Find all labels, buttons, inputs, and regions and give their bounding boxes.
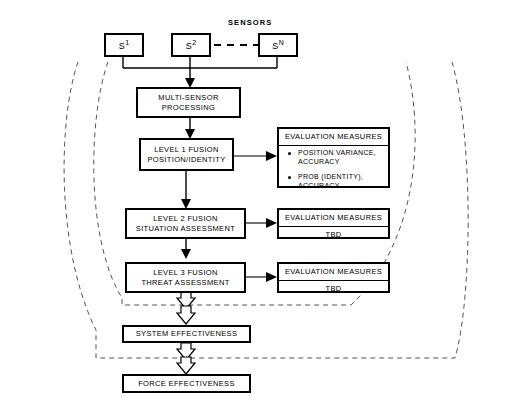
node-level-1-fusion[interactable]: LEVEL 1 FUSION POSITION/IDENTITY — [139, 138, 234, 171]
node-level-3-fusion-line2: THREAT ASSESSMENT — [141, 278, 229, 287]
connector-layer — [0, 0, 512, 414]
level3-to-eval3-arrowhead — [266, 272, 277, 282]
system-to-force-hollow-arrow-lower — [177, 357, 195, 374]
sensor-box-s2-label: S2 — [186, 39, 196, 52]
node-force-effectiveness-label: FORCE EFFECTIVENESS — [138, 379, 235, 388]
eval-bullet-prob-identity: PROB (IDENTITY), ACCURACY — [279, 170, 388, 194]
eval-box-level-3-tbd: TBD — [325, 281, 341, 296]
node-multi-sensor-processing-line1: MULTI-SENSOR — [158, 93, 218, 102]
eval-box-level-2-body: TBD — [279, 227, 388, 242]
eval-box-level-2-tbd: TBD — [325, 227, 341, 242]
eval-box-level-2[interactable]: EVALUATION MEASURES TBD — [277, 208, 390, 239]
sensor-box-sn[interactable]: SN — [258, 33, 298, 57]
sensor-box-s1[interactable]: S1 — [104, 33, 144, 57]
level2-to-eval2-arrowhead — [266, 218, 277, 228]
bullet-dot-icon — [288, 176, 291, 179]
node-multi-sensor-processing-line2: PROCESSING — [162, 103, 216, 112]
level2-to-level3-arrowhead — [181, 249, 191, 259]
node-system-effectiveness-label: SYSTEM EFFECTIVENESS — [136, 329, 238, 338]
node-level-1-fusion-line1: LEVEL 1 FUSION — [154, 145, 219, 154]
sensor-box-sn-label: SN — [272, 39, 284, 52]
sensor-box-s1-label: S1 — [119, 39, 129, 52]
eval-box-level-3[interactable]: EVALUATION MEASURES TBD — [277, 262, 390, 293]
node-level-3-fusion[interactable]: LEVEL 3 FUSION THREAT ASSESSMENT — [125, 262, 246, 293]
eval-box-level-3-header: EVALUATION MEASURES — [279, 264, 388, 281]
eval-bullet-position-variance: POSITION VARIANCE, ACCURACY — [279, 146, 388, 170]
level3-to-system-hollow-arrow-lower — [177, 306, 195, 324]
node-force-effectiveness[interactable]: FORCE EFFECTIVENESS — [122, 374, 251, 393]
node-level-2-fusion[interactable]: LEVEL 2 FUSION SITUATION ASSESSMENT — [125, 208, 246, 239]
node-level-1-fusion-line2: POSITION/IDENTITY — [147, 155, 225, 164]
sensor-box-s2[interactable]: S2 — [171, 33, 211, 57]
node-level-3-fusion-line1: LEVEL 3 FUSION — [153, 268, 218, 277]
node-system-effectiveness[interactable]: SYSTEM EFFECTIVENESS — [122, 325, 251, 343]
eval-box-level-1-body: POSITION VARIANCE, ACCURACY PROB (IDENTI… — [279, 146, 388, 193]
node-level-2-fusion-line2: SITUATION ASSESSMENT — [136, 224, 235, 233]
eval-box-level-1-header: EVALUATION MEASURES — [279, 129, 388, 146]
node-level-2-fusion-line1: LEVEL 2 FUSION — [153, 214, 218, 223]
bullet-dot-icon — [288, 152, 291, 155]
eval-bullet-prob-identity-text: PROB (IDENTITY), ACCURACY — [298, 173, 363, 191]
eval-box-level-2-header: EVALUATION MEASURES — [279, 210, 388, 227]
sensors-title-label: SENSORS — [228, 18, 272, 27]
eval-bullet-position-variance-text: POSITION VARIANCE, ACCURACY — [298, 149, 376, 167]
eval-box-level-3-body: TBD — [279, 281, 388, 296]
diagram-canvas: SENSORS S1 S2 SN MULTI-SENSOR PROCESSING… — [0, 0, 512, 414]
node-multi-sensor-processing[interactable]: MULTI-SENSOR PROCESSING — [136, 87, 241, 118]
eval-box-level-1[interactable]: EVALUATION MEASURES POSITION VARIANCE, A… — [277, 127, 390, 188]
level1-to-eval1-arrowhead — [266, 151, 277, 161]
